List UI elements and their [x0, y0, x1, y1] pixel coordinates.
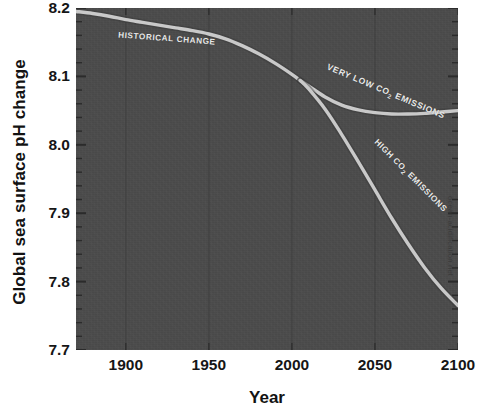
- y-tick-label: 7.8: [16, 273, 70, 291]
- x-tick-label: 2000: [247, 356, 337, 374]
- x-axis-tick-labels: 19001950200020502100: [0, 356, 498, 382]
- x-tick-label: 1950: [164, 356, 254, 374]
- plot-svg: [76, 8, 458, 350]
- chart-figure: Global sea surface pH change 8.28.18.07.…: [0, 0, 498, 420]
- plot-area: HISTORICAL CHANGE VERY LOW CO2 EMISSIONS…: [76, 8, 458, 350]
- series-line: [76, 11, 300, 80]
- y-tick-label: 7.9: [16, 204, 70, 222]
- x-tick-label: 2050: [330, 356, 420, 374]
- x-tick-label: 2100: [413, 356, 498, 374]
- series-shadow: [76, 11, 300, 80]
- x-tick-label: 1900: [81, 356, 171, 374]
- y-tick-label: 8.1: [16, 67, 70, 85]
- watermark-text: ocean-acidification.net: [446, 196, 455, 276]
- x-axis-title: Year: [76, 388, 458, 408]
- y-tick-label: 8.0: [16, 136, 70, 154]
- y-tick-label: 8.2: [16, 0, 70, 17]
